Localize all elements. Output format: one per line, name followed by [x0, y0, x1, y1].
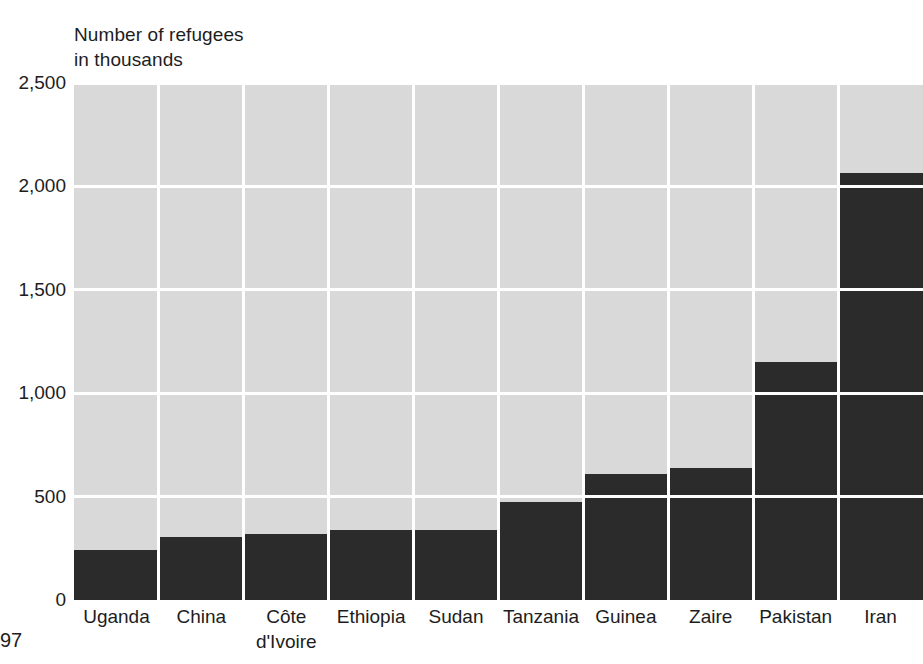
x-axis-category-label: Zaire	[668, 604, 753, 629]
column-separator	[327, 83, 330, 600]
bar	[840, 173, 923, 600]
y-axis-tick-label: 0	[0, 589, 66, 611]
page-folio: 97	[0, 629, 22, 652]
bar	[670, 468, 752, 600]
bar	[160, 537, 242, 600]
y-axis-tick-label: 2,000	[0, 175, 66, 197]
x-axis-category-label: Tanzania	[499, 604, 584, 629]
y-axis-tick-label: 2,500	[0, 72, 66, 94]
x-axis-category-label: Ethiopia	[329, 604, 414, 629]
x-axis: UgandaChinaCôte d'IvoireEthiopiaSudanTan…	[74, 604, 923, 662]
bar	[330, 530, 412, 600]
axis-title: Number of refugees in thousands	[74, 22, 244, 72]
y-axis-tick-label: 1,500	[0, 279, 66, 301]
x-axis-category-label: Guinea	[583, 604, 668, 629]
column-separator	[412, 83, 415, 600]
bar	[245, 534, 327, 600]
x-axis-category-label: China	[159, 604, 244, 629]
column-separator	[242, 83, 245, 600]
x-axis-category-label: Côte d'Ivoire	[244, 604, 329, 654]
bar	[74, 550, 157, 600]
bar	[585, 474, 667, 600]
x-axis-category-label: Uganda	[74, 604, 159, 629]
x-axis-category-label: Iran	[838, 604, 923, 629]
plot-area	[74, 83, 923, 600]
y-axis-tick-label: 500	[0, 486, 66, 508]
y-axis: 05001,0001,5002,0002,500	[0, 83, 66, 600]
bar	[755, 362, 837, 600]
x-axis-category-label: Pakistan	[753, 604, 838, 629]
y-axis-tick-label: 1,000	[0, 382, 66, 404]
bar	[500, 502, 582, 600]
column-separator	[157, 83, 160, 600]
x-axis-category-label: Sudan	[414, 604, 499, 629]
bar	[415, 530, 497, 600]
